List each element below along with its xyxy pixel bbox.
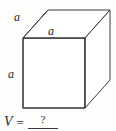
answer-blank-field[interactable]: ? [28, 109, 58, 129]
volume-formula: V = ? [4, 109, 58, 129]
cube-volume-figure: a a a V = ? [0, 0, 116, 131]
answer-placeholder: ? [40, 113, 45, 125]
edge-label-depth: a [14, 11, 20, 23]
cube-front-face [23, 38, 85, 108]
edge-label-height: a [8, 68, 14, 80]
equals-sign: = [17, 116, 24, 129]
edge-label-width: a [48, 25, 54, 37]
volume-variable: V [4, 115, 13, 129]
